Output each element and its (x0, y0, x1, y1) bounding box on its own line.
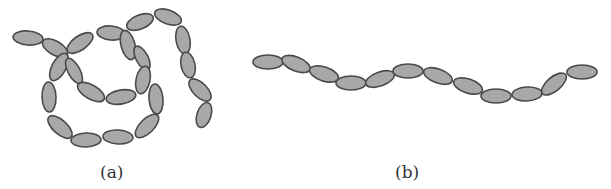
chain-segment (393, 64, 423, 78)
chain-segment (124, 10, 155, 33)
chain-segment (193, 100, 214, 129)
chain-segment (41, 82, 56, 112)
panel-a-caption: (a) (100, 162, 123, 182)
chain-segment (567, 65, 597, 79)
chain-segment (103, 129, 134, 145)
chain-segment (452, 75, 485, 98)
chain-segment (105, 88, 137, 107)
panel-b-extended-chain (253, 52, 597, 103)
chain-segment (75, 78, 108, 105)
chain-segment (512, 86, 543, 102)
chain-segment (422, 64, 455, 87)
chain-segment (174, 25, 193, 55)
chain-segment (185, 75, 215, 105)
chain-segment (336, 76, 366, 90)
chain-segment (71, 132, 101, 147)
chain-segment (44, 112, 76, 142)
chain-segment (152, 6, 183, 29)
polymer-chain-figure (0, 0, 611, 189)
panel-a-coiled-chain (12, 6, 214, 148)
chain-segment (12, 30, 43, 47)
chain-segment (538, 69, 570, 99)
chain-segment (279, 52, 312, 76)
chain-segment (131, 110, 162, 141)
chain-segment (64, 29, 97, 58)
chain-segment (178, 51, 197, 79)
chain-segment (481, 89, 511, 103)
chain-segment (148, 83, 165, 114)
chain-segment (253, 55, 283, 69)
panel-b-caption: (b) (395, 162, 419, 182)
chain-segment (364, 67, 397, 90)
